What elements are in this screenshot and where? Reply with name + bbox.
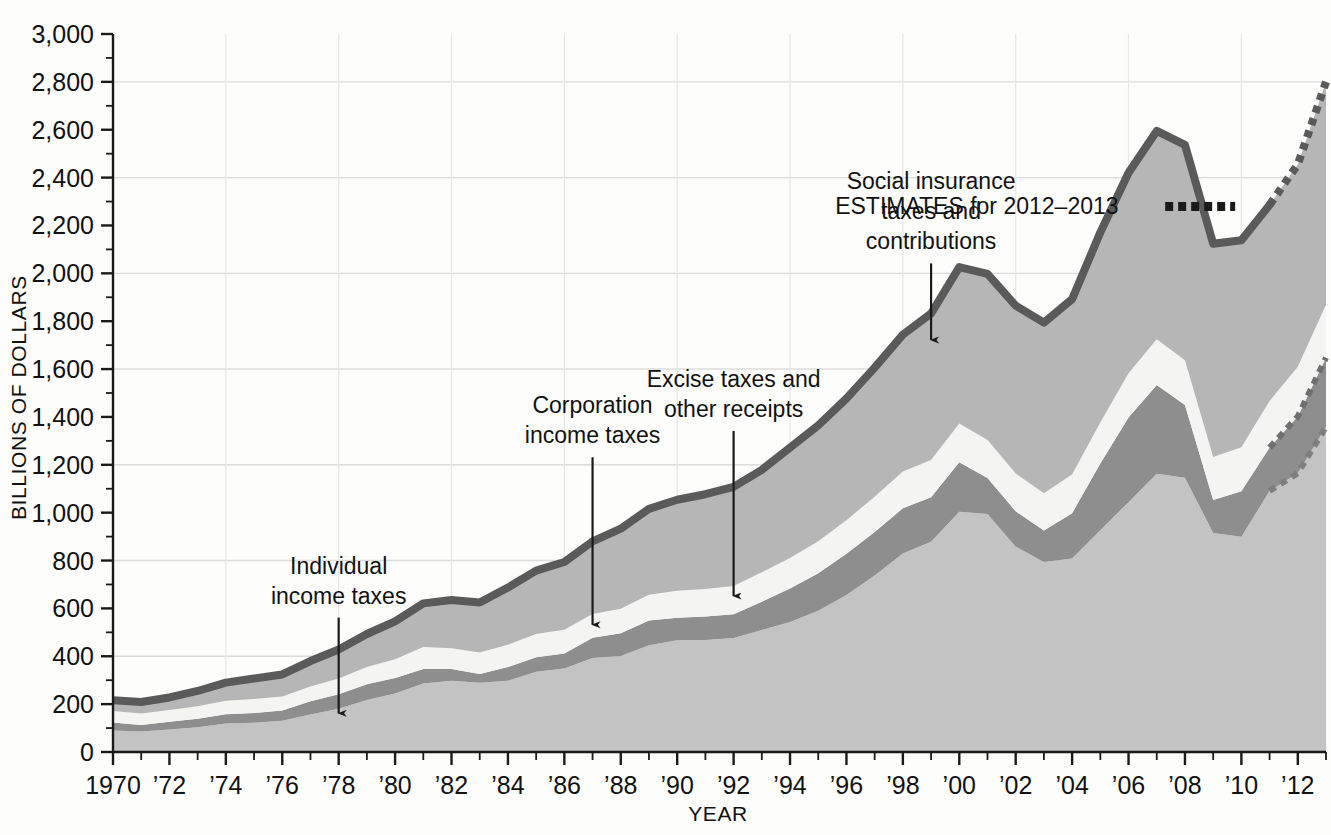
x-tick-label: ’78: [322, 771, 355, 799]
x-tick-label: ’84: [491, 771, 524, 799]
x-tick-label: ’06: [1112, 771, 1145, 799]
y-tick-label: 2,400: [31, 164, 94, 192]
x-tick-label: ’92: [717, 771, 750, 799]
y-tick-labels: 02004006008001,0001,2001,4001,6001,8002,…: [31, 20, 94, 766]
federal-receipts-area-chart: 02004006008001,0001,2001,4001,6001,8002,…: [0, 0, 1331, 835]
x-tick-label: ’10: [1225, 771, 1258, 799]
y-tick-label: 2,800: [31, 68, 94, 96]
x-tick-label: ’04: [1055, 771, 1088, 799]
y-tick-label: 800: [52, 547, 94, 575]
annotation-label-line: income taxes: [271, 583, 407, 609]
x-tick-label: ’94: [773, 771, 806, 799]
x-tick-label: ’96: [830, 771, 863, 799]
x-tick-label: ’98: [886, 771, 919, 799]
y-axis-title: BILLIONS OF DOLLARS: [7, 275, 30, 520]
y-tick-label: 1,000: [31, 499, 94, 527]
y-tick-label: 1,200: [31, 451, 94, 479]
y-tick-label: 2,000: [31, 259, 94, 287]
y-tick-label: 200: [52, 690, 94, 718]
x-tick-label: ’00: [943, 771, 976, 799]
y-tick-label: 1,600: [31, 355, 94, 383]
x-tick-label: ’08: [1168, 771, 1201, 799]
y-tick-label: 3,000: [31, 20, 94, 48]
annotation-label-line: Social insurance: [847, 168, 1016, 194]
annotation-label-line: contributions: [866, 228, 996, 254]
x-tick-label: ’88: [604, 771, 637, 799]
y-tick-label: 400: [52, 642, 94, 670]
x-tick-label: ’12: [1281, 771, 1314, 799]
y-tick-label: 1,400: [31, 403, 94, 431]
annotation-label-line: income taxes: [525, 422, 661, 448]
y-tick-label: 600: [52, 594, 94, 622]
y-tick-label: 2,600: [31, 116, 94, 144]
annotation-label-line: Corporation: [532, 392, 652, 418]
x-tick-label: ’02: [999, 771, 1032, 799]
x-tick-label: 1970: [85, 771, 141, 799]
x-tick-label: ’90: [660, 771, 693, 799]
x-tick-label: ’74: [209, 771, 242, 799]
x-tick-label: ’82: [435, 771, 468, 799]
annotation-label-line: Excise taxes and: [647, 366, 821, 392]
y-tick-label: 0: [80, 738, 94, 766]
y-tick-label: 2,200: [31, 211, 94, 239]
x-tick-label: ’86: [548, 771, 581, 799]
y-axis: [101, 34, 113, 752]
x-tick-label: ’80: [378, 771, 411, 799]
annotation-label-line: taxes and: [881, 198, 981, 224]
x-tick-labels: 1970’72’74’76’78’80’82’84’86’88’90’92’94…: [85, 771, 1314, 799]
y-tick-label: 1,800: [31, 307, 94, 335]
x-axis-title: YEAR: [688, 802, 748, 825]
annotation-label-line: Individual: [290, 553, 387, 579]
chart-figure: 02004006008001,0001,2001,4001,6001,8002,…: [0, 0, 1331, 835]
x-tick-label: ’72: [153, 771, 186, 799]
x-axis: [113, 752, 1326, 765]
annotation-label-line: other receipts: [664, 396, 803, 422]
x-tick-label: ’76: [266, 771, 299, 799]
